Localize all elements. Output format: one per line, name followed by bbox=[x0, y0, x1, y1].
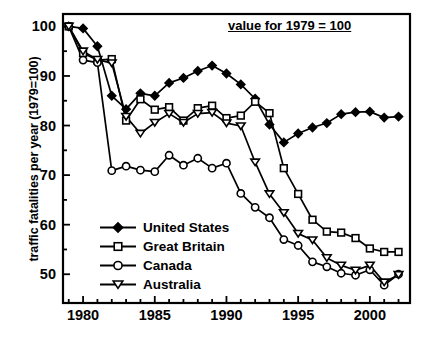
x-tick-1985: 1985 bbox=[125, 308, 185, 323]
x-axis-tick-labels: 19801985199019952000 bbox=[0, 308, 427, 334]
y-tick-70: 70 bbox=[12, 168, 56, 183]
y-tick-80: 80 bbox=[12, 119, 56, 134]
chart-legend: United StatesGreat BritainCanadaAustrali… bbox=[98, 218, 258, 294]
legend-item-united-states[interactable]: United States bbox=[98, 218, 258, 237]
legend-item-great-britain[interactable]: Great Britain bbox=[98, 237, 258, 256]
legend-label: United States bbox=[138, 221, 229, 235]
filled-diamond-icon bbox=[98, 218, 138, 237]
chart-figure: traffic fatalities per year (1979=100) 1… bbox=[0, 0, 427, 345]
y-tick-60: 60 bbox=[12, 218, 56, 233]
open-triangle-down-icon bbox=[98, 275, 138, 294]
x-tick-1995: 1995 bbox=[268, 308, 328, 323]
open-circle-icon bbox=[98, 256, 138, 275]
legend-label: Canada bbox=[138, 259, 192, 273]
legend-label: Australia bbox=[138, 278, 201, 292]
open-square-icon bbox=[98, 237, 138, 256]
y-tick-100: 100 bbox=[12, 19, 56, 34]
x-tick-2000: 2000 bbox=[340, 308, 400, 323]
x-tick-1980: 1980 bbox=[53, 308, 113, 323]
y-axis-tick-labels: 1009080706050 bbox=[8, 0, 56, 345]
y-tick-50: 50 bbox=[12, 267, 56, 282]
legend-item-canada[interactable]: Canada bbox=[98, 256, 258, 275]
x-tick-1990: 1990 bbox=[196, 308, 256, 323]
y-tick-90: 90 bbox=[12, 69, 56, 84]
legend-label: Great Britain bbox=[138, 240, 225, 254]
legend-item-australia[interactable]: Australia bbox=[98, 275, 258, 294]
chart-annotation: value for 1979 = 100 bbox=[228, 18, 351, 33]
